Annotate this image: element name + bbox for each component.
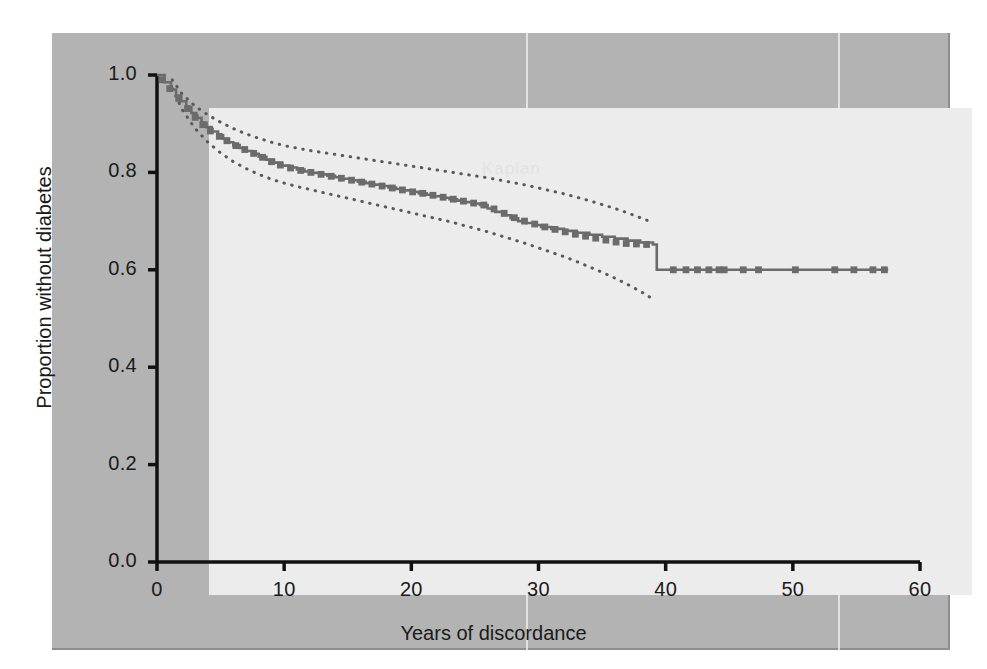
- censor-mark: [268, 158, 275, 165]
- axes-layer: [148, 75, 920, 571]
- censor-mark: [369, 181, 376, 188]
- censor-mark: [307, 169, 314, 176]
- censor-mark: [287, 165, 294, 172]
- censor-mark: [460, 198, 467, 205]
- x-tick-label: 50: [763, 578, 823, 601]
- censor-mark: [430, 192, 437, 199]
- censor-mark: [643, 241, 650, 248]
- censor-mark: [277, 162, 284, 169]
- censor-mark: [440, 194, 447, 201]
- censor-mark: [175, 95, 182, 102]
- censor-mark: [881, 266, 888, 273]
- x-tick-label: 60: [890, 578, 950, 601]
- censor-mark: [318, 171, 325, 178]
- censor-mark: [572, 231, 579, 238]
- censor-mark: [721, 266, 728, 273]
- y-tick-label: 1.0: [77, 62, 137, 85]
- censor-mark: [184, 105, 191, 112]
- y-tick-label: 0.6: [77, 257, 137, 280]
- censor-mark: [582, 233, 589, 240]
- x-axis-title: Years of discordance: [0, 622, 987, 645]
- censor-mark: [241, 146, 248, 153]
- censor-mark: [831, 266, 838, 273]
- x-tick-label: 10: [254, 578, 314, 601]
- censor-mark: [870, 266, 877, 273]
- censor-mark: [450, 196, 457, 203]
- censor-mark: [706, 266, 713, 273]
- censor-mark: [419, 190, 426, 197]
- y-tick-label: 0.8: [77, 159, 137, 182]
- censor-mark: [399, 187, 406, 194]
- censor-mark: [670, 266, 677, 273]
- x-tick-label: 20: [381, 578, 441, 601]
- censor-mark: [850, 266, 857, 273]
- censor-mark: [297, 167, 304, 174]
- censor-mark: [166, 85, 173, 92]
- censor-mark: [192, 114, 199, 121]
- x-tick-label: 0: [127, 578, 187, 601]
- censor-mark: [613, 239, 620, 246]
- censor-mark: [740, 266, 747, 273]
- censor-mark: [755, 266, 762, 273]
- censor-mark: [531, 221, 538, 228]
- censor-mark: [562, 228, 569, 235]
- censor-mark: [348, 177, 355, 184]
- censor-mark: [328, 173, 335, 180]
- censor-mark: [491, 206, 498, 213]
- y-tick-label: 0.0: [77, 549, 137, 572]
- chart-svg: [0, 0, 987, 669]
- censor-mark: [501, 210, 508, 217]
- censor-mark: [480, 202, 487, 209]
- x-tick-label: 40: [636, 578, 696, 601]
- censor-mark: [521, 218, 528, 225]
- censor-mark: [592, 235, 599, 242]
- censor-mark: [470, 200, 477, 207]
- y-axis-title: Proportion without diabetes: [33, 108, 56, 468]
- figure-root: Kaplan 0.00.20.40.60.81.0 0102030405060 …: [0, 0, 987, 669]
- censor-mark: [338, 175, 345, 182]
- censor-mark: [602, 237, 609, 244]
- censor-mark: [216, 133, 223, 140]
- y-tick-label: 0.4: [77, 354, 137, 377]
- censor-mark: [379, 183, 386, 190]
- censor-mark: [511, 214, 518, 221]
- survival-curve-layer: [157, 75, 888, 270]
- censor-mark: [259, 154, 266, 161]
- censor-mark: [199, 121, 206, 128]
- censor-mark: [250, 150, 257, 157]
- censor-mark: [224, 137, 231, 144]
- y-tick-label: 0.2: [77, 452, 137, 475]
- censor-mark: [792, 266, 799, 273]
- survival-step-curve: [157, 75, 888, 270]
- censor-mark: [623, 240, 630, 247]
- censor-mark: [232, 142, 239, 149]
- censor-mark: [389, 185, 396, 192]
- censor-mark: [683, 266, 690, 273]
- x-tick-label: 30: [509, 578, 569, 601]
- censor-mark: [541, 224, 548, 231]
- censor-mark: [358, 179, 365, 186]
- censor-mark: [207, 128, 214, 135]
- censor-mark: [552, 226, 559, 233]
- censor-mark: [694, 266, 701, 273]
- censor-mark: [159, 76, 166, 83]
- censor-mark: [633, 241, 640, 248]
- censor-mark: [409, 188, 416, 195]
